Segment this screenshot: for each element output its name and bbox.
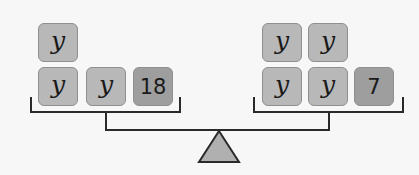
fulcrum-triangle-icon bbox=[0, 0, 419, 175]
